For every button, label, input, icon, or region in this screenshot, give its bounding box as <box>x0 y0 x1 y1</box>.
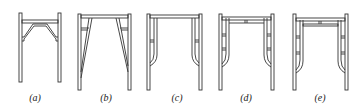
frame-a <box>19 13 61 82</box>
panel-label-e: (e) <box>314 92 325 103</box>
frame-d <box>219 14 274 90</box>
frame-b <box>78 14 131 90</box>
panel-label-c: (c) <box>171 92 182 103</box>
panel-label-a: (a) <box>29 92 41 103</box>
panel-label-d: (d) <box>240 92 252 103</box>
frame-e <box>293 14 348 90</box>
frame-c <box>147 14 202 90</box>
panel-label-b: (b) <box>100 92 112 103</box>
